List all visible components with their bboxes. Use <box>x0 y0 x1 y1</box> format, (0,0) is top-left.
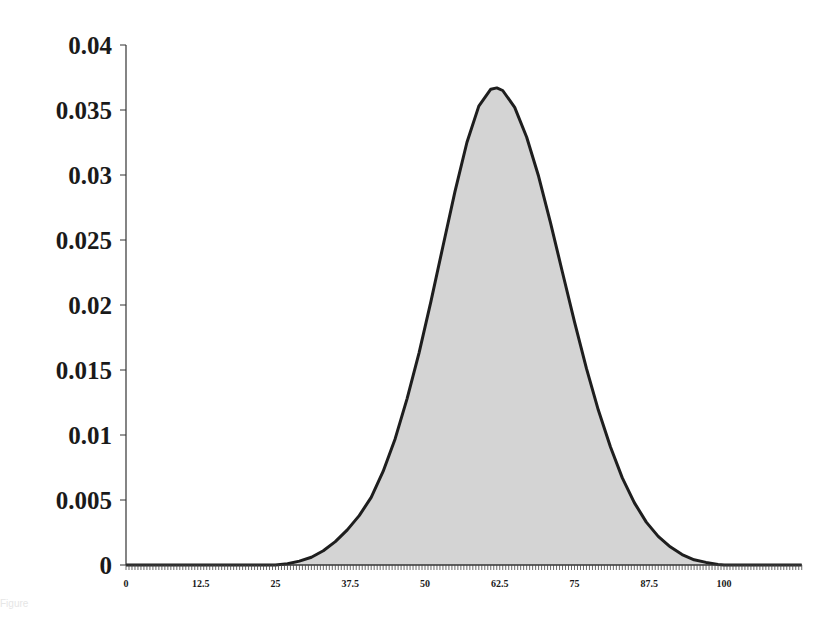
x-ticks: 012.52537.55062.57587.5100 <box>124 578 732 589</box>
y-tick-label: 0.015 <box>56 357 112 384</box>
x-tick-label: 37.5 <box>342 578 360 589</box>
y-tick-label: 0.005 <box>56 487 112 514</box>
y-tick-label: 0.025 <box>56 227 112 254</box>
y-tick-label: 0 <box>100 552 113 579</box>
y-tick-label: 0.035 <box>56 97 112 124</box>
x-tick-label: 62.5 <box>491 578 509 589</box>
x-tick-label: 87.5 <box>641 578 659 589</box>
figure-caption: Figure <box>0 598 28 609</box>
x-tick-label: 0 <box>124 578 129 589</box>
y-tick-label: 0.04 <box>68 32 112 59</box>
y-tick-label: 0.02 <box>68 292 112 319</box>
x-tick-label: 50 <box>420 578 430 589</box>
y-tick-label: 0.03 <box>68 162 112 189</box>
x-tick-label: 75 <box>570 578 580 589</box>
plot-area <box>126 88 802 565</box>
x-tick-label: 25 <box>271 578 281 589</box>
density-chart: 00.0050.010.0150.020.0250.030.0350.04 01… <box>0 0 830 618</box>
y-ticks: 00.0050.010.0150.020.0250.030.0350.04 <box>56 32 126 579</box>
x-minor-ticks <box>126 565 802 570</box>
y-tick-label: 0.01 <box>68 422 112 449</box>
x-tick-label: 100 <box>717 578 732 589</box>
x-tick-label: 12.5 <box>192 578 210 589</box>
